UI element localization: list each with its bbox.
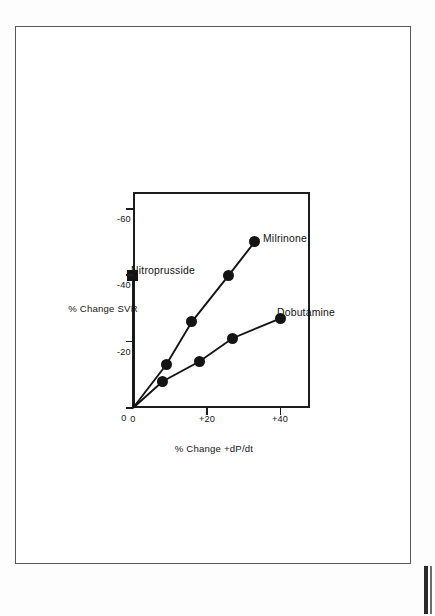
series-label-dobutamine: Dobutamine <box>277 307 335 318</box>
data-point-milrinone-3 <box>223 270 234 281</box>
y-tick-label-+40: +40 <box>272 414 288 424</box>
x-tick-0 <box>126 407 133 409</box>
series-label-milrinone: Milrinone <box>263 232 307 243</box>
data-point-dobutamine-1 <box>157 376 168 387</box>
y-tick-label-+20: +20 <box>199 414 215 424</box>
figure-rotated-container: 0-20-40-600+20+40 % Change SVR % Change … <box>133 192 310 424</box>
data-point-dobutamine-3 <box>227 333 238 344</box>
chart-plot-area: 0-20-40-600+20+40 % Change SVR % Change … <box>133 192 310 424</box>
x-tick--60 <box>126 208 133 210</box>
y-axis-title: % Change +dP/dt <box>175 443 253 454</box>
x-axis-title: % Change SVR <box>68 303 138 314</box>
data-point-dobutamine-2 <box>194 356 205 367</box>
x-tick-label-0: 0 <box>121 413 126 423</box>
x-tick-label--40: -40 <box>117 280 131 290</box>
x-tick-label--60: -60 <box>117 214 131 224</box>
page-edge-artifact <box>424 566 428 614</box>
x-tick--20 <box>126 341 133 343</box>
data-point-milrinone-1 <box>161 359 172 370</box>
x-tick-label--20: -20 <box>117 347 131 357</box>
y-tick-label-0: 0 <box>130 414 135 424</box>
page-edge-artifact-secondary <box>430 566 432 614</box>
line-dobutamine <box>133 318 281 408</box>
series-label-nitroprusside: Nitroprusside <box>131 265 195 276</box>
